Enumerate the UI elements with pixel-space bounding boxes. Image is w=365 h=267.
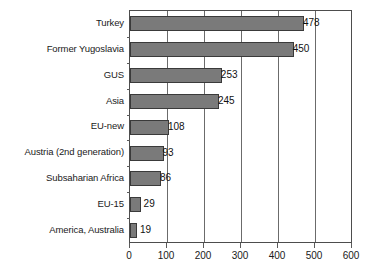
x-axis-tick — [351, 243, 352, 248]
y-axis-tick — [127, 89, 130, 90]
x-axis-tick — [129, 243, 130, 248]
x-axis-tick-label: 600 — [343, 250, 360, 262]
y-axis-tick — [127, 192, 130, 193]
bar-former-yugoslavia[interactable] — [130, 42, 294, 57]
y-axis-tick — [127, 166, 130, 167]
bar-america-australia[interactable] — [130, 223, 137, 238]
category-label: Asia — [0, 96, 124, 106]
bar-value-label: 450 — [293, 41, 310, 57]
x-axis-tick-label: 100 — [158, 250, 175, 262]
category-label: EU-15 — [0, 199, 124, 209]
category-label: Former Yugoslavia — [0, 44, 124, 54]
bar-value-label: 19 — [140, 222, 151, 238]
category-axis-labels: Turkey Former Yugoslavia GUS Asia EU-new… — [0, 10, 124, 243]
x-axis-tick — [240, 243, 241, 248]
bar-gus[interactable] — [130, 68, 222, 83]
x-axis-tick-label: 200 — [195, 250, 212, 262]
category-label: EU-new — [0, 121, 124, 131]
x-axis-tick-label: 300 — [232, 250, 249, 262]
bar-eu-new[interactable] — [130, 120, 169, 135]
bar-value-label: 93 — [162, 145, 173, 161]
x-axis-tick — [166, 243, 167, 248]
x-axis-tick — [203, 243, 204, 248]
y-axis-tick — [127, 37, 130, 38]
bar-value-label: 108 — [168, 119, 185, 135]
x-axis-ticks — [129, 243, 353, 249]
bar-turkey[interactable] — [130, 16, 304, 31]
plot-area: 478 450 253 245 108 93 86 29 — [129, 10, 352, 243]
bar-value-label: 478 — [303, 15, 320, 31]
x-axis-tick — [277, 243, 278, 248]
category-label: Austria (2nd generation) — [0, 147, 124, 157]
x-axis-labels: 0 100 200 300 400 500 600 — [129, 250, 353, 264]
category-label: Subsaharian Africa — [0, 173, 124, 183]
y-axis-tick — [127, 115, 130, 116]
x-axis-tick-label: 0 — [126, 250, 132, 262]
bar-value-label: 29 — [144, 196, 155, 212]
bar-subsaharian-africa[interactable] — [130, 171, 161, 186]
bar-asia[interactable] — [130, 94, 219, 109]
bar-value-label: 253 — [221, 67, 238, 83]
bar-eu-15[interactable] — [130, 197, 141, 212]
y-axis-tick — [127, 140, 130, 141]
bar-value-label: 245 — [218, 93, 235, 109]
bar-value-label: 86 — [160, 170, 171, 186]
x-axis-tick — [314, 243, 315, 248]
x-axis-tick-label: 500 — [306, 250, 323, 262]
gridline-500 — [315, 11, 316, 242]
category-label: GUS — [0, 70, 124, 80]
y-axis-tick — [127, 63, 130, 64]
y-axis-tick — [127, 218, 130, 219]
x-axis-tick-label: 400 — [269, 250, 286, 262]
category-label: America, Australia — [0, 225, 124, 235]
bar-austria-2nd-generation[interactable] — [130, 146, 164, 161]
category-label: Turkey — [0, 18, 124, 28]
bar-chart: Turkey Former Yugoslavia GUS Asia EU-new… — [0, 0, 365, 267]
